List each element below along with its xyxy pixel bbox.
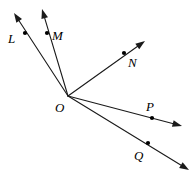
ray-oq <box>68 96 183 166</box>
ray-op <box>68 96 175 124</box>
vertex-label-o: O <box>55 100 65 115</box>
ray-diagram-canvas: LMNPQO <box>0 0 194 175</box>
rays-group <box>14 9 189 170</box>
point-label-m: M <box>51 28 64 43</box>
point-dot-n <box>122 51 126 55</box>
point-dot-m <box>45 31 49 35</box>
ray-on <box>68 45 139 96</box>
point-dot-l <box>23 31 27 35</box>
point-label-q: Q <box>134 148 144 163</box>
arrowhead-icon-n <box>135 41 145 49</box>
point-dot-q <box>146 141 150 145</box>
point-label-p: P <box>145 99 154 114</box>
point-dot-p <box>150 116 154 120</box>
point-label-l: L <box>7 31 15 46</box>
point-label-n: N <box>127 55 138 70</box>
arrowhead-icon-p <box>172 120 182 127</box>
arrowhead-icon-l <box>14 13 22 23</box>
geometry-figure: LMNPQO <box>0 0 194 175</box>
point-labels-group: LMNPQO <box>7 28 154 163</box>
arrowhead-icon-q <box>179 162 189 170</box>
arrowhead-icon-m <box>41 9 48 19</box>
